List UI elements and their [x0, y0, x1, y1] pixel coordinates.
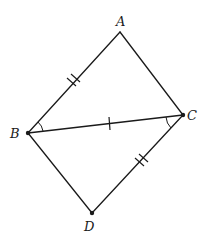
geometry-diagram: A B C D — [0, 0, 205, 238]
double-tick-ab — [67, 74, 80, 86]
segment-bd — [28, 133, 92, 213]
segment-ac — [120, 32, 183, 115]
label-c: C — [187, 108, 197, 123]
angle-arc-c — [166, 117, 171, 128]
point-d-dot — [90, 211, 94, 215]
label-d: D — [83, 219, 95, 234]
point-c-dot — [181, 113, 185, 117]
single-tick-bc — [109, 117, 110, 130]
segment-cd — [92, 115, 183, 213]
segment-ab — [28, 32, 120, 133]
segment-bc — [28, 115, 183, 133]
angle-arc-b — [38, 122, 43, 131]
label-a: A — [115, 14, 125, 29]
label-b: B — [9, 126, 20, 141]
point-b-dot — [26, 131, 30, 135]
